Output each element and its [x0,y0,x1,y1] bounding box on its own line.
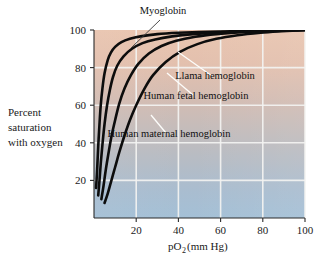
x-axis-title-subscript: 2 [182,246,186,255]
x-axis-title-unit: (mm Hg) [187,240,228,253]
y-axis-title-line-1: Percent [8,106,41,118]
curve-annotation-label: Myoglobin [140,5,187,16]
figure-container: 20406080100 20406080100 Percent saturati… [0,0,321,266]
plot-background [94,30,305,218]
y-tick-label: 60 [75,99,87,111]
x-tick-label: 80 [257,224,269,236]
y-tick-label: 40 [75,137,87,149]
oxygen-dissociation-chart: 20406080100 20406080100 Percent saturati… [0,0,321,266]
x-tick-label: 20 [131,224,143,236]
curve-annotation-label: Human fetal hemoglobin [144,90,250,101]
x-axis-title: pO 2 (mm Hg) [168,240,228,255]
y-tick-label: 20 [75,174,87,186]
y-tick-label: 80 [75,62,87,74]
x-tick-label: 60 [215,224,227,236]
y-tick-label: 100 [70,24,87,36]
x-axis-title-main: pO [168,240,182,252]
curve-annotation-label: Llama hemoglobin [175,70,255,81]
curve-annotation-label: Human maternal hemoglobin [107,128,231,139]
x-tick-label: 40 [173,224,185,236]
x-tick-label: 100 [297,224,314,236]
y-axis-title-line-3: with oxygen [8,136,63,148]
x-tick-labels: 20406080100 [131,224,314,236]
y-axis-title-line-2: saturation [8,121,52,133]
y-axis-title: Percent saturation with oxygen [8,106,63,148]
y-tick-labels: 20406080100 [70,24,87,186]
